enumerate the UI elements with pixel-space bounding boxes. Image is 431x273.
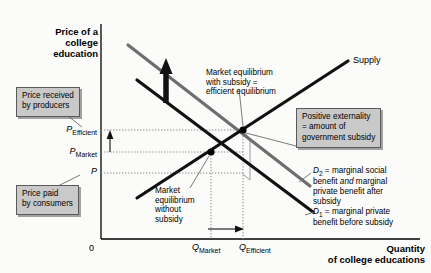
annotation-market-equilibrium: Market equilibrium without subsidy <box>155 186 195 225</box>
demand-curve-d2 <box>128 45 310 186</box>
x-tick-q-efficient: QEfficient <box>239 242 271 255</box>
supply-curve-label: Supply <box>353 55 381 66</box>
origin-label: 0 <box>89 243 94 254</box>
price-rise-arrow <box>107 130 114 152</box>
annotation-efficient-equilibrium: Market equilibrium with subsidy = effici… <box>206 68 276 97</box>
d1-curve-label: D1 = marginal privatebenefit before subs… <box>313 207 393 228</box>
y-tick-p: P <box>40 166 97 177</box>
efficient-equilibrium-point <box>239 126 246 133</box>
x-tick-q-market: QMarket <box>192 242 220 255</box>
demand-shift-arrow <box>160 58 173 103</box>
x-axis-title: Quantity of college educations <box>300 243 425 265</box>
callout-price-paid: Price paid by consumers <box>16 185 79 215</box>
y-tick-p-market: PMarket <box>40 146 97 159</box>
market-equilibrium-point <box>207 148 214 155</box>
callout-positive-externality: Positive externality = amount of governm… <box>296 108 381 148</box>
y-axis-title: Price of a college education <box>36 26 98 60</box>
quantity-rise-arrow <box>208 226 244 233</box>
callout-price-received: Price received by producers <box>16 87 80 117</box>
d2-curve-label: D2 = marginal socialbenefit and marginal… <box>313 166 387 206</box>
y-tick-p-efficient: PEfficient <box>40 124 97 137</box>
economics-supply-demand-figure: Price of a college education Quantity of… <box>0 0 431 273</box>
